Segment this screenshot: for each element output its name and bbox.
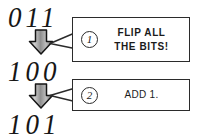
diagram-canvas: 011 1 FLIP ALL THE BITS! 100	[0, 0, 203, 139]
callout-text-step-2: ADD 1.	[98, 88, 189, 102]
callout-text-step-1: FLIP ALL THE BITS!	[98, 26, 189, 53]
callout-step-1[interactable]: 1 FLIP ALL THE BITS!	[72, 17, 190, 62]
binary-value-start: 011	[8, 3, 59, 32]
binary-value-middle: 100	[8, 57, 61, 86]
binary-value-result: 101	[8, 110, 61, 139]
step-marker-2: 2	[81, 87, 98, 104]
step-marker-1: 1	[81, 31, 98, 48]
callout-step-2[interactable]: 2 ADD 1.	[72, 79, 190, 111]
